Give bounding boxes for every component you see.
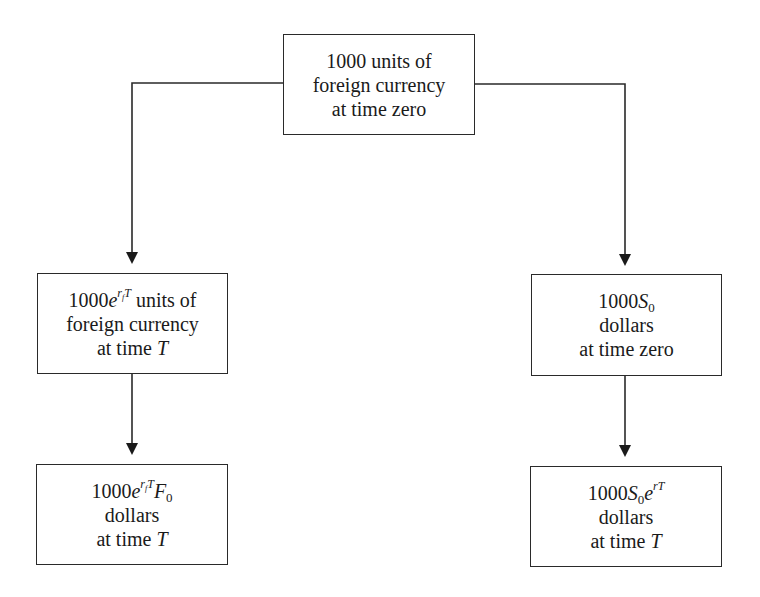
formula-base: 1000 bbox=[588, 482, 628, 504]
node-dollars-invested-time-T: 1000S0erT dollars at time T bbox=[530, 466, 722, 567]
node-foreign-currency-time-zero: 1000 units of foreign currency at time z… bbox=[283, 34, 475, 135]
node-text-line: at time zero bbox=[332, 97, 426, 121]
node-formula-line: 1000S0erT bbox=[588, 481, 665, 505]
node-text-line: at time T bbox=[590, 529, 661, 553]
time-label: at time bbox=[96, 528, 156, 550]
exponent-T: T bbox=[147, 477, 154, 491]
formula-base: 1000 bbox=[68, 289, 108, 311]
node-text-line: foreign currency bbox=[66, 312, 199, 336]
time-label: at time bbox=[97, 337, 157, 359]
node-foreign-currency-time-T: 1000erfT units of foreign currency at ti… bbox=[37, 273, 228, 374]
arrowhead-icon bbox=[619, 254, 631, 266]
time-variable: T bbox=[650, 530, 661, 552]
node-text-line: dollars bbox=[599, 313, 653, 337]
arrowhead-icon bbox=[126, 252, 138, 264]
edge-top-to-left-mid bbox=[132, 83, 283, 254]
node-text-line: 1000 units of bbox=[326, 49, 432, 73]
formula-F: F bbox=[154, 480, 166, 502]
arrowhead-icon bbox=[619, 445, 631, 457]
node-formula-line: 1000erfT units of bbox=[68, 288, 196, 312]
node-text-line: at time zero bbox=[579, 337, 673, 361]
formula-exp-var: e bbox=[644, 482, 653, 504]
formula-base: 1000 bbox=[91, 480, 131, 502]
formula-exponent: rT bbox=[653, 479, 664, 493]
formula-exponent: rfT bbox=[140, 477, 154, 491]
node-text-line: at time T bbox=[96, 527, 167, 551]
exponent-T: T bbox=[124, 286, 131, 300]
formula-S: S bbox=[638, 290, 648, 312]
formula-S: S bbox=[628, 482, 638, 504]
formula-F-subscript: 0 bbox=[166, 490, 173, 505]
time-variable: T bbox=[157, 337, 168, 359]
time-label: at time bbox=[590, 530, 650, 552]
formula-suffix: units of bbox=[131, 289, 197, 311]
arrowhead-icon bbox=[126, 443, 138, 455]
formula-exp-var: e bbox=[131, 480, 140, 502]
node-dollars-time-zero: 1000S0 dollars at time zero bbox=[531, 274, 722, 376]
node-text-line: dollars bbox=[599, 505, 653, 529]
node-text-line: dollars bbox=[105, 503, 159, 527]
formula-base: 1000 bbox=[598, 290, 638, 312]
node-text-line: foreign currency bbox=[313, 73, 446, 97]
node-formula-line: 1000S0 bbox=[598, 289, 655, 313]
edge-top-to-right-mid bbox=[475, 84, 625, 256]
node-dollars-forward-time-T: 1000erfTF0 dollars at time T bbox=[36, 464, 228, 565]
node-text-line: at time T bbox=[97, 336, 168, 360]
time-variable: T bbox=[156, 528, 167, 550]
node-formula-line: 1000erfTF0 bbox=[91, 479, 172, 503]
formula-exponent: rfT bbox=[117, 286, 131, 300]
